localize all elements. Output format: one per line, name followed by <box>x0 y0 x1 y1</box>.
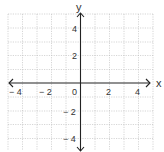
y-tick-2: 2 <box>72 51 77 61</box>
y-axis-label: y <box>76 1 82 13</box>
y-tick-neg2: − 2 <box>63 107 76 117</box>
x-tick-neg2: − 2 <box>39 87 52 97</box>
x-tick-neg4: − 4 <box>9 87 22 97</box>
x-tick-2: 2 <box>106 87 111 97</box>
coordinate-plane: x y − 4 − 2 0 2 4 4 2 − 2 − 4 <box>0 0 164 152</box>
x-axis-label: x <box>156 77 162 89</box>
x-tick-4: 4 <box>135 87 140 97</box>
y-tick-neg4: − 4 <box>63 134 76 144</box>
origin-label: 0 <box>72 87 77 97</box>
y-tick-4: 4 <box>72 24 77 34</box>
axes <box>9 13 150 151</box>
